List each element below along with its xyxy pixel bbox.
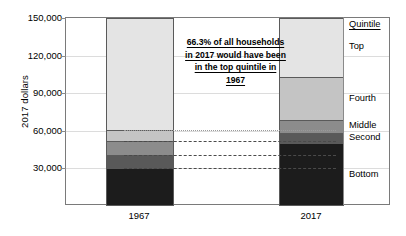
bar-segment-bottom [106,168,174,206]
y-tick-label: 90,000 [6,87,62,98]
y-tick-mark [61,131,66,132]
y-tick-label: 150,000 [6,12,62,23]
y-tick-mark [61,18,66,19]
bar-segment-middle [106,141,174,155]
y-axis-tick-labels: 150,000120,00090,00060,00030,000 [0,0,62,236]
x-axis-label-2017: 2017 [300,210,321,221]
bar-segment-fourth [106,130,174,141]
legend-title: Quintile [349,19,381,29]
bar-1967 [106,18,174,206]
y-tick-mark [61,93,66,94]
chart-figure: 2017 dollars 150,000120,00090,00060,0003… [0,0,406,236]
chart-annotation: 66.3% of all households in 2017 would ha… [184,36,287,86]
quintile-connector-line [124,168,336,169]
legend-item-second: Second [349,132,381,142]
bar-segment-top [106,18,174,130]
x-axis-label-1967: 1967 [128,210,149,221]
bar-segment-bottom [279,143,344,206]
legend-divider [343,17,344,205]
quintile-connector-line [124,141,336,142]
y-tick-label: 30,000 [6,162,62,173]
legend-item-middle: Middle [349,120,376,130]
y-tick-label: 120,000 [6,49,62,60]
quintile-connector-line [124,130,336,131]
bar-segment-top [279,18,344,77]
legend-item-fourth: Fourth [349,93,376,103]
bar-segment-fourth [279,77,344,120]
legend: Quintile TopFourthMiddleSecondBottom [343,17,390,205]
quintile-connector-line [124,155,336,156]
y-tick-label: 60,000 [6,124,62,135]
legend-item-top: Top [349,41,364,51]
y-tick-mark [61,168,66,169]
bar-segment-second [106,155,174,168]
legend-item-bottom: Bottom [349,169,378,179]
y-tick-mark [61,56,66,57]
bar-2017 [279,18,344,206]
